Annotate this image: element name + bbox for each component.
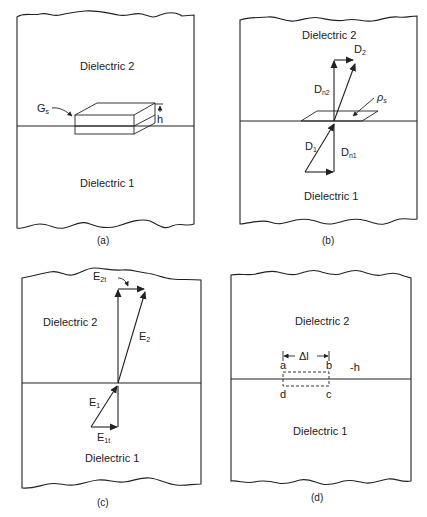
panel-a-dielectric-2-label: Dielectric 2 xyxy=(80,60,134,72)
corner-c-label: c xyxy=(326,388,332,400)
dn1-label: Dn1 xyxy=(341,146,357,159)
height-h-label: h xyxy=(157,113,163,125)
panel-a-dielectric-1-label: Dielectric 1 xyxy=(80,177,134,189)
rho-s-label: ρs xyxy=(376,91,387,104)
loop-height-label: -h xyxy=(350,361,360,373)
panel-a: Dielectric 2 Dielectric 1 Gs h (a) xyxy=(17,11,194,246)
panel-b-dielectric-2-label: Dielectric 2 xyxy=(302,29,356,41)
panel-c: Dielectric 2 Dielectric 1 E2t E2 E1 E1t … xyxy=(22,268,201,508)
corner-b-label: b xyxy=(326,359,332,371)
panel-d-dielectric-1-label: Dielectric 1 xyxy=(293,425,347,437)
e2-label: E2 xyxy=(139,330,150,343)
panel-b: Dielectric 2 Dielectric 1 ρs D2 Dn2 D1 D… xyxy=(240,16,417,246)
corner-d-label: d xyxy=(280,388,286,400)
pillbox xyxy=(75,103,155,134)
panel-b-caption: (b) xyxy=(322,235,334,246)
d1-label: D1 xyxy=(305,140,317,153)
panel-c-dielectric-1-label: Dielectric 1 xyxy=(85,452,139,464)
d2-vector xyxy=(334,64,355,121)
panel-d: Dielectric 2 Dielectric 1 Δl a b d c -h … xyxy=(231,270,411,503)
panel-c-dielectric-2-label: Dielectric 2 xyxy=(43,316,97,328)
panel-b-dielectric-1-label: Dielectric 1 xyxy=(304,190,358,202)
panel-a-frame xyxy=(17,11,194,229)
boundary-conditions-figure: Dielectric 2 Dielectric 1 Gs h (a) Diele… xyxy=(0,0,427,517)
dn2-label: Dn2 xyxy=(314,83,330,96)
e1-label: E1 xyxy=(89,396,100,409)
rho-pointer-arrow xyxy=(353,98,374,116)
e1t-label: E1t xyxy=(97,431,110,444)
d2-label: D2 xyxy=(354,43,366,56)
corner-a-label: a xyxy=(280,359,287,371)
panel-d-frame xyxy=(231,270,411,484)
panel-d-dielectric-2-label: Dielectric 2 xyxy=(295,315,349,327)
surface-pointer-arrow xyxy=(52,108,72,116)
e2t-label: E2t xyxy=(93,270,106,283)
panel-d-caption: (d) xyxy=(311,492,323,503)
e2t-pointer-arrow xyxy=(118,278,128,286)
surface-g-label: Gs xyxy=(37,102,50,115)
surface-charge-sheet xyxy=(301,111,378,121)
panel-c-caption: (c) xyxy=(97,497,109,508)
panel-a-caption: (a) xyxy=(97,235,109,246)
delta-l-label: Δl xyxy=(299,350,309,362)
